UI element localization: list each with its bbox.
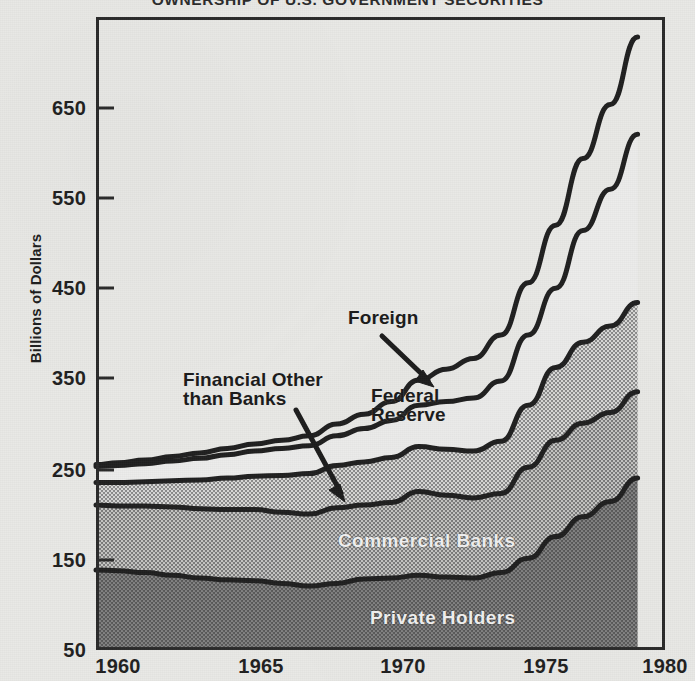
- x-tick-1970: 1970: [358, 655, 448, 678]
- series-label-commercial-banks: Commercial Banks: [338, 530, 515, 552]
- x-tick-1980: 1980: [620, 655, 695, 678]
- y-tick-350: 350: [24, 367, 86, 390]
- y-tick-250: 250: [24, 459, 86, 482]
- y-tick-450: 450: [24, 277, 86, 300]
- x-tick-1965: 1965: [216, 655, 306, 678]
- financial-other-line-1: Financial Other: [183, 370, 373, 389]
- series-label-financial-other: Financial Other than Banks: [183, 370, 373, 409]
- y-axis-tick-labels: 650 550 450 350 250 150 50: [6, 0, 86, 681]
- plot-frame: [96, 17, 665, 650]
- federal-reserve-line-1: Federal: [371, 386, 491, 405]
- y-tick-150: 150: [24, 549, 86, 572]
- series-label-private-holders: Private Holders: [370, 607, 515, 629]
- series-label-foreign: Foreign: [348, 308, 418, 327]
- series-label-federal-reserve: Federal Reserve: [371, 386, 491, 425]
- y-tick-550: 550: [24, 187, 86, 210]
- x-tick-1975: 1975: [501, 655, 591, 678]
- federal-reserve-line-2: Reserve: [371, 405, 491, 424]
- y-axis-ticks: [92, 0, 122, 681]
- y-tick-650: 650: [24, 97, 86, 120]
- financial-other-line-2: than Banks: [183, 389, 373, 408]
